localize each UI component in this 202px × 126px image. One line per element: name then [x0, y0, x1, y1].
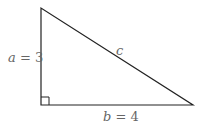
- side-b-label: b = 4: [103, 109, 139, 124]
- side-c-label: c: [116, 43, 124, 58]
- triangle-diagram: a = 3 c b = 4: [0, 0, 202, 126]
- right-angle-marker: [41, 97, 49, 105]
- side-a-label: a = 3: [8, 50, 43, 65]
